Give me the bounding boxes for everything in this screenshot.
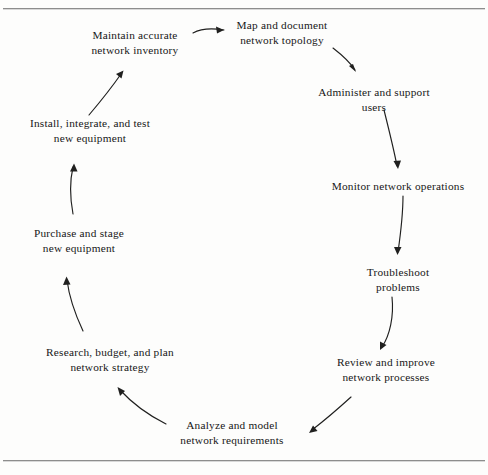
figure-top-rule <box>3 8 485 9</box>
node-troubleshoot-problems: Troubleshoot problems <box>355 265 441 295</box>
node-monitor-network-operations: Monitor network operations <box>318 179 478 194</box>
node-purchase-and-stage-new-equipment: Purchase and stage new equipment <box>18 226 140 256</box>
node-analyze-and-model-network-requirements: Analyze and model network requirements <box>178 418 286 448</box>
node-map-and-document-network-topology: Map and document network topology <box>226 18 338 48</box>
node-research-budget-and-plan-network-strategy: Research, budget, and plan network strat… <box>40 345 180 375</box>
arrow-map-to-administer <box>333 48 356 72</box>
arrow-install-to-maintain <box>89 71 124 116</box>
node-maintain-accurate-network-inventory: Maintain accurate network inventory <box>76 28 194 58</box>
node-review-and-improve-network-processes: Review and improve network processes <box>330 355 442 385</box>
node-install-integrate-and-test-new-equipment: Install, integrate, and test new equipme… <box>20 116 160 146</box>
network-lifecycle-cycle-diagram: Maintain accurate network inventory Map … <box>0 0 488 475</box>
figure-bottom-rule <box>3 460 485 461</box>
arrow-administer-to-monitor <box>384 110 401 169</box>
arrow-analyze-to-research <box>118 387 167 424</box>
arrow-monitor-to-troubleshoot <box>394 196 403 255</box>
arrow-maintain-to-map <box>193 27 224 34</box>
node-administer-and-support-users: Administer and support users <box>316 85 432 115</box>
arrow-troubleshoot-to-review <box>380 297 393 350</box>
arrow-research-to-purchase <box>63 277 83 332</box>
arrow-review-to-analyze <box>309 397 351 433</box>
arrow-purchase-to-install <box>70 164 78 215</box>
